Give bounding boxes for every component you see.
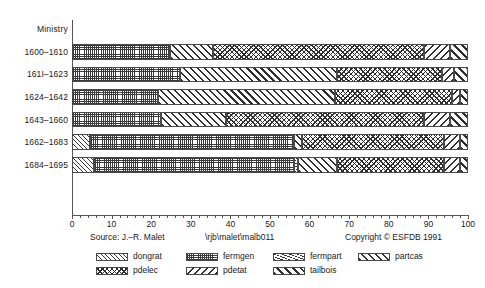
bar-segment-fermgen (94, 157, 294, 173)
x-tick-minor (167, 215, 168, 218)
bar-segment-dongrat (72, 157, 94, 173)
bar-segment-partcas (170, 44, 212, 60)
bar-row (0, 112, 485, 128)
x-tick-minor (207, 215, 208, 218)
y-axis-title: Ministry (37, 24, 68, 34)
legend-swatch-partcas (358, 253, 390, 261)
bar-segment-pdetat (424, 44, 450, 60)
x-tick-minor (254, 215, 255, 218)
legend-label: partcas (395, 252, 423, 261)
x-tick-minor (88, 215, 89, 218)
bar-segment-partcas (298, 157, 338, 173)
legend-swatch-dongrat (96, 253, 128, 261)
legend-item-fermpart: fermpart (273, 252, 342, 261)
legend-item-tailbois: tailbois (273, 266, 336, 275)
bar-segment-partcas (161, 112, 227, 128)
x-tick-label: 40 (226, 219, 235, 229)
x-tick-minor (325, 215, 326, 218)
x-tick-minor (373, 215, 374, 218)
bar-segment-fermgen (72, 67, 180, 83)
bar-segment-pdelec (335, 89, 452, 105)
x-tick-minor (278, 215, 279, 218)
x-tick-minor (215, 215, 216, 218)
bar-row (0, 89, 485, 105)
x-tick-minor (175, 215, 176, 218)
x-tick-minor (397, 215, 398, 218)
x-tick-minor (135, 215, 136, 218)
x-tick-minor (405, 215, 406, 218)
bar-segment-partcas (294, 134, 302, 150)
x-tick-minor (365, 215, 366, 218)
bar-segment-pdelec (337, 157, 444, 173)
legend-item-dongrat: dongrat (96, 252, 162, 261)
x-tick-label: 10 (107, 219, 116, 229)
footer-source: Source: J.–R. Malet (90, 232, 165, 242)
bar-segment-pdelec (226, 112, 424, 128)
bar-segment-fermgen (72, 89, 158, 105)
x-tick-minor (199, 215, 200, 218)
x-tick-minor (222, 215, 223, 218)
x-tick-label: 30 (186, 219, 195, 229)
footer-path: \rjb\malet\malb011 (205, 232, 274, 242)
x-tick-minor (127, 215, 128, 218)
bar-row (0, 44, 485, 60)
bar-segment-partcas (180, 67, 337, 83)
bar-segment-fermgen (90, 134, 294, 150)
x-tick-minor (420, 215, 421, 218)
legend-swatch-tailbois (273, 267, 305, 275)
legend-swatch-fermpart (273, 253, 305, 261)
x-tick-label: 50 (265, 219, 274, 229)
bar-segment-pdelec (302, 134, 445, 150)
bar-segment-tailbois (460, 89, 468, 105)
x-tick-label: 60 (305, 219, 314, 229)
bar-segment-tailbois (454, 67, 468, 83)
x-tick-label: 0 (70, 219, 75, 229)
x-tick-minor (294, 215, 295, 218)
legend-item-fermgen: fermgen (186, 252, 254, 261)
x-tick-minor (318, 215, 319, 218)
x-tick-minor (143, 215, 144, 218)
legend-swatch-fermgen (186, 253, 218, 261)
x-tick-label: 90 (424, 219, 433, 229)
stacked-bar-chart: Ministry 1600–1610161I–16231624–16421643… (0, 0, 485, 288)
bar-segment-pdetat (444, 134, 460, 150)
legend-swatch-pdetat (186, 267, 218, 275)
x-tick-minor (286, 215, 287, 218)
bar-segment-dongrat (72, 134, 90, 150)
x-tick-label: 70 (344, 219, 353, 229)
legend-label: fermpart (310, 252, 342, 261)
bar-segment-partcas (158, 89, 335, 105)
x-tick-minor (381, 215, 382, 218)
x-tick-minor (159, 215, 160, 218)
legend-swatch-pdelec (96, 267, 128, 275)
x-tick-minor (341, 215, 342, 218)
x-tick-minor (80, 215, 81, 218)
legend-item-pdetat: pdetat (186, 266, 247, 275)
legend-label: pdelec (133, 266, 158, 275)
x-tick-minor (96, 215, 97, 218)
x-tick-label: 100 (461, 219, 475, 229)
bar-segment-tailbois (450, 44, 468, 60)
bar-segment-tailbois (460, 134, 468, 150)
x-tick-label: 80 (384, 219, 393, 229)
x-tick-minor (104, 215, 105, 218)
legend-label: tailbois (310, 266, 336, 275)
x-tick-minor (436, 215, 437, 218)
footer-copyright: Copyright © ESFDB 1991 (345, 232, 442, 242)
bar-row (0, 67, 485, 83)
bar-segment-pdelec (213, 44, 425, 60)
x-tick-minor (183, 215, 184, 218)
bar-segment-pdetat (444, 157, 460, 173)
legend-item-pdelec: pdelec (96, 266, 158, 275)
x-tick-minor (238, 215, 239, 218)
x-tick-minor (302, 215, 303, 218)
x-tick-minor (444, 215, 445, 218)
bar-segment-fermgen (72, 112, 161, 128)
legend-label: pdetat (223, 266, 247, 275)
x-tick-minor (452, 215, 453, 218)
x-tick-minor (357, 215, 358, 218)
legend-item-partcas: partcas (358, 252, 423, 261)
x-tick-minor (262, 215, 263, 218)
x-tick-minor (460, 215, 461, 218)
bar-segment-pdetat (424, 112, 450, 128)
